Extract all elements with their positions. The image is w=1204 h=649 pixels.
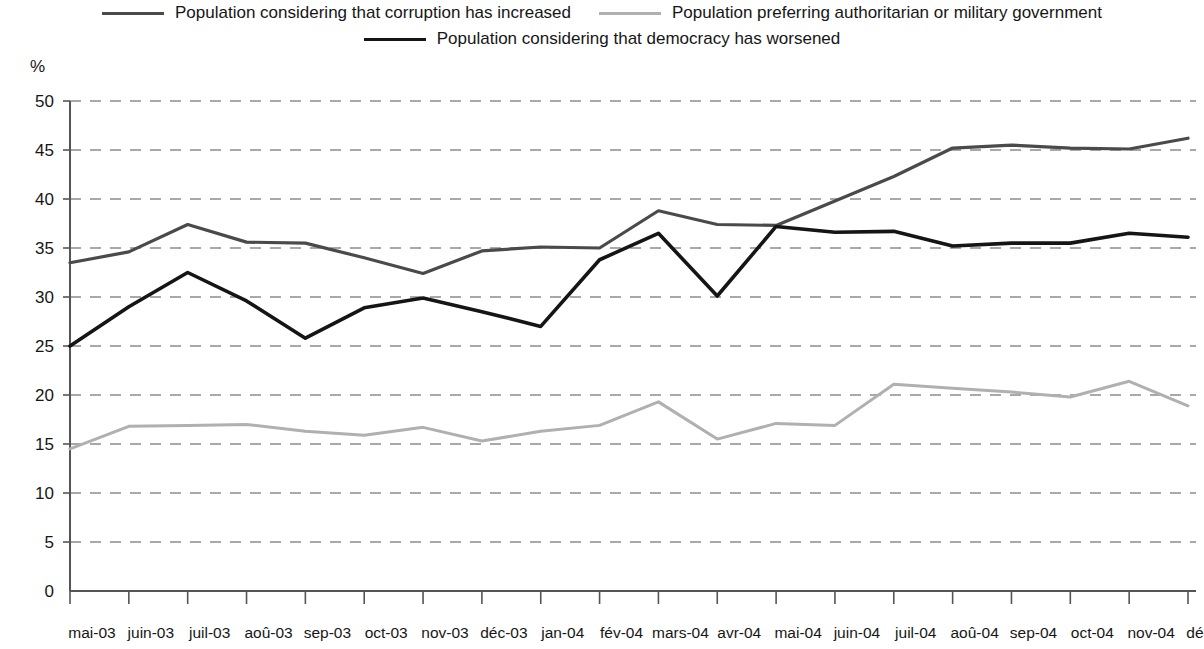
x-tick-label-group: mai-03juin-03juil-03aoû-03sep-03oct-03no… xyxy=(68,624,1204,641)
x-tick-group xyxy=(70,591,1188,604)
x-tick-label: nov-03 xyxy=(421,624,468,641)
data-line-authoritarian xyxy=(70,381,1188,449)
x-tick-label: sep-03 xyxy=(304,624,351,641)
y-tick-label: 30 xyxy=(35,288,54,307)
y-tick-label: 45 xyxy=(35,141,54,160)
x-tick-label: juil-03 xyxy=(188,624,230,641)
chart-container: Population considering that corruption h… xyxy=(0,0,1204,649)
x-tick-label: juin-03 xyxy=(127,624,175,641)
x-tick-label: oct-03 xyxy=(365,624,408,641)
x-tick-label: jan-04 xyxy=(540,624,584,641)
y-tick-label: 35 xyxy=(35,239,54,258)
y-tick-label: 5 xyxy=(45,533,54,552)
y-tick-group: 05101520253035404550 xyxy=(35,92,70,601)
y-tick-label: 0 xyxy=(45,582,54,601)
plot-area: 05101520253035404550 mai-03juin-03juil-0… xyxy=(0,0,1204,649)
gridlines-group xyxy=(70,101,1196,542)
data-series-group xyxy=(70,138,1188,449)
x-tick-label: mars-04 xyxy=(652,624,709,641)
x-tick-label: oct-04 xyxy=(1071,624,1114,641)
x-tick-label: mai-03 xyxy=(68,624,115,641)
y-tick-label: 15 xyxy=(35,435,54,454)
x-tick-label: déc-03 xyxy=(480,624,527,641)
x-tick-label: nov-04 xyxy=(1127,624,1175,641)
x-tick-label: déc-04 xyxy=(1186,624,1204,641)
line-chart-svg: 05101520253035404550 mai-03juin-03juil-0… xyxy=(0,0,1204,649)
x-tick-label: aoû-03 xyxy=(244,624,292,641)
y-tick-label: 40 xyxy=(35,190,54,209)
data-line-democracy xyxy=(70,226,1188,346)
x-tick-label: mai-04 xyxy=(774,624,822,641)
x-tick-label: aoû-04 xyxy=(950,624,999,641)
x-tick-label: avr-04 xyxy=(717,624,761,641)
data-line-corruption xyxy=(70,138,1188,273)
x-tick-label: juil-04 xyxy=(894,624,937,641)
x-tick-label: sep-04 xyxy=(1010,624,1058,641)
x-tick-label: juin-04 xyxy=(833,624,881,641)
y-tick-label: 10 xyxy=(35,484,54,503)
y-tick-label: 50 xyxy=(35,92,54,111)
y-tick-label: 25 xyxy=(35,337,54,356)
x-tick-label: fév-04 xyxy=(600,624,643,641)
y-tick-label: 20 xyxy=(35,386,54,405)
